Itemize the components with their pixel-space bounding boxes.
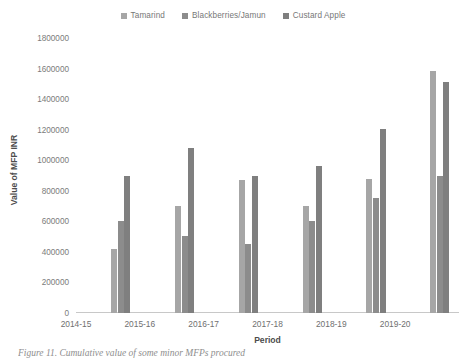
plot-area: 0200000400000600000800000100000012000001…: [76, 38, 459, 313]
figure-caption: Figure 11. Cumulative value of some mino…: [18, 348, 458, 358]
bar: [175, 206, 181, 313]
y-axis-tick-label: 1600000: [37, 64, 69, 73]
chart-legend: Tamarind Blackberries/Jamun Custard Appl…: [0, 11, 466, 20]
legend-label: Tamarind: [131, 11, 165, 20]
bar: [437, 176, 443, 314]
legend-swatch-icon: [121, 13, 127, 19]
bar: [124, 176, 130, 314]
bar: [373, 198, 379, 313]
bar: [252, 176, 258, 314]
y-axis-tick-label: 1200000: [37, 125, 69, 134]
legend-item-custard-apple: Custard Apple: [283, 11, 346, 20]
y-axis-tick-label: 400000: [42, 247, 69, 256]
x-axis-tick-label: 2019-20: [380, 319, 411, 329]
legend-item-tamarind: Tamarind: [121, 11, 165, 20]
x-axis-tick-label: 2015-16: [124, 319, 155, 329]
legend-swatch-icon: [182, 13, 188, 19]
bar: [182, 236, 188, 313]
bar: [380, 129, 386, 313]
bar: [111, 249, 117, 313]
y-axis-tick-label: 1000000: [37, 156, 69, 165]
x-axis-line: [76, 312, 459, 313]
y-axis-title: Value of MFP INR: [9, 135, 19, 206]
x-axis-tick-label: 2018-19: [316, 319, 347, 329]
bar: [188, 148, 194, 313]
bar: [303, 206, 309, 313]
x-axis-tick-label: 2016-17: [188, 319, 219, 329]
bar: [245, 244, 251, 313]
y-axis-tick-label: 1800000: [37, 34, 69, 43]
bar: [430, 71, 436, 313]
bar: [239, 180, 245, 313]
y-axis-tick-label: 1400000: [37, 95, 69, 104]
bar: [309, 221, 315, 313]
bar: [366, 179, 372, 313]
y-axis-tick-label: 0: [64, 309, 69, 318]
x-axis-tick-label: 2014-15: [61, 319, 92, 329]
legend-swatch-icon: [283, 13, 289, 19]
legend-label: Blackberries/Jamun: [192, 11, 266, 20]
x-axis-tick-label: 2017-18: [252, 319, 283, 329]
bar-chart: Tamarind Blackberries/Jamun Custard Appl…: [0, 0, 466, 361]
y-axis-tick-label: 600000: [42, 217, 69, 226]
y-axis-tick-label: 200000: [42, 278, 69, 287]
x-axis-title: Period: [76, 335, 459, 345]
bar: [443, 82, 449, 313]
legend-item-blackberries-jamun: Blackberries/Jamun: [182, 11, 266, 20]
bar: [316, 166, 322, 313]
legend-label: Custard Apple: [293, 11, 346, 20]
y-axis-tick-label: 800000: [42, 186, 69, 195]
bar: [118, 221, 124, 313]
